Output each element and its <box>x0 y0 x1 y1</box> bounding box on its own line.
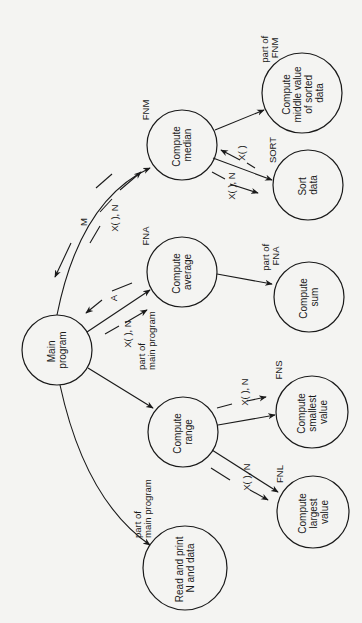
svg-text:Sort data: Sort data <box>297 174 319 195</box>
flow-in-sort-tail <box>212 172 225 179</box>
svg-text:Compute median: Compute median <box>171 123 193 166</box>
flow-in-median <box>120 172 141 190</box>
svg-text:part of main program: part of main program <box>136 311 157 370</box>
node-label: Compute <box>298 278 309 319</box>
node-compute-smallest-value: Compute smallest value FNS <box>273 361 348 449</box>
node-compute-largest-value: Compute largest value FNL <box>274 465 349 548</box>
flow-label: X( ), N <box>226 172 237 200</box>
flow-out-sort-tail <box>247 163 255 168</box>
node-label: smallest <box>307 395 318 432</box>
node-tag: FNA <box>140 226 151 246</box>
node-compute-sum: Compute sum part of FNA <box>260 241 344 332</box>
flow-label: X( ) <box>236 145 247 160</box>
node-tag: main program <box>146 311 157 370</box>
svg-text:part of FNA: part of FNA <box>260 241 281 271</box>
node-label: Compute <box>281 74 292 115</box>
edge-median-middle <box>215 110 264 130</box>
node-compute-range: Compute range part of main program <box>136 311 218 467</box>
node-label: Compute <box>171 253 182 294</box>
flow-in-largest-tail <box>211 468 230 480</box>
node-tag: FNM <box>140 100 151 121</box>
flow-label: X( ), N <box>122 320 133 348</box>
svg-text:Compute range: Compute range <box>172 410 194 453</box>
node-tag: SORT <box>267 137 278 163</box>
node-compute-median: Compute median FNM <box>140 100 217 180</box>
flow-label: M <box>78 218 89 226</box>
node-label: Compute <box>296 393 307 434</box>
svg-text:Read and print N and dat: Read and print N and data <box>174 534 196 602</box>
node-label: Compute <box>171 126 182 167</box>
flow-in-smallest-tail <box>217 404 232 408</box>
node-compute-middle-value: Compute middle value of sorted data part… <box>259 33 342 133</box>
node-tag: FNM <box>269 38 280 59</box>
node-label: largest <box>308 498 319 528</box>
node-label: value <box>318 400 329 424</box>
node-label: sum <box>309 288 320 307</box>
node-label: Main <box>46 341 57 363</box>
svg-text:Compute average: Compute average <box>171 250 193 293</box>
edge-range-smallest <box>218 415 275 425</box>
svg-text:Compute smallest v: Compute smallest value <box>296 390 329 433</box>
node-label: Compute <box>297 493 308 534</box>
node-label: Sort <box>297 177 308 196</box>
flow-out-average-tail <box>112 283 132 291</box>
flow-label: X( ), N <box>241 463 252 491</box>
flow-label: A <box>108 294 119 301</box>
flow-label: X( ), N <box>239 378 250 406</box>
node-label: Compute <box>172 413 183 454</box>
flow-in-average-tail <box>105 326 119 334</box>
node-label: of sorted <box>303 75 314 114</box>
edge-main-range <box>88 368 153 408</box>
node-label: program <box>57 331 68 368</box>
flow-in-largest <box>250 490 268 500</box>
node-label: value <box>319 500 330 524</box>
svg-text:Compute largest va: Compute largest value <box>297 490 330 533</box>
node-label: middle value <box>292 66 303 123</box>
node-main-program: Main program <box>22 315 92 385</box>
structure-chart: Main program Compute median FNM Compute … <box>0 0 362 623</box>
node-compute-average: Compute average FNA <box>140 226 217 307</box>
node-label: range <box>183 419 194 445</box>
node-label: data <box>314 83 325 103</box>
node-label: data <box>308 175 319 195</box>
node-tag: FNA <box>270 246 281 266</box>
node-sort-data: Sort data SORT <box>267 137 343 220</box>
svg-text:part of FNM: part of FNM <box>259 33 280 63</box>
node-label: Read and print <box>174 536 185 602</box>
node-tag: main program <box>142 479 153 538</box>
edge-main-median <box>57 168 150 315</box>
node-label: N and data <box>185 543 196 592</box>
node-label: average <box>182 253 193 290</box>
svg-text:part of main program: part of main program <box>132 479 153 538</box>
flow-out-median-tail <box>96 174 112 188</box>
node-tag: FNS <box>273 361 284 380</box>
flow-out-median-tail2 <box>90 226 100 243</box>
node-read-and-print: Read and print N and data part of main p… <box>132 479 227 610</box>
svg-text:Compute sum: Compute sum <box>298 275 320 318</box>
flow-out-average <box>86 300 102 313</box>
node-label: median <box>182 129 193 162</box>
edge-average-sum <box>217 274 272 284</box>
svg-text:Compute middle value: Compute middle value of sorted data <box>281 64 325 123</box>
flow-label: X( ), N <box>109 204 120 232</box>
svg-text:Main program: Main program <box>46 331 68 368</box>
node-tag: FNL <box>274 465 285 483</box>
